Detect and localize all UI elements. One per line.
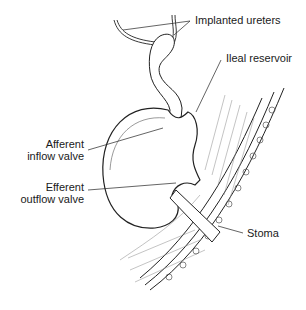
label-implanted-ureters: Implanted ureters — [195, 14, 281, 26]
label-ileal-reservoir: Ileal reservoir — [226, 52, 292, 64]
label-afferent-inflow-valve: Afferent inflow valve — [14, 138, 84, 162]
label-stoma: Stoma — [247, 227, 279, 239]
label-efferent-outflow-valve: Efferent outflow valve — [14, 181, 84, 205]
